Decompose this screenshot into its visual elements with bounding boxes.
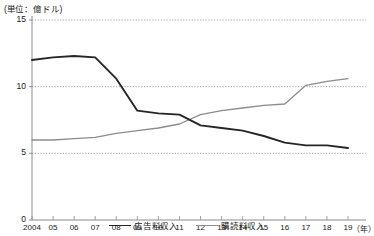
chart-canvas	[0, 0, 374, 236]
axis-lines	[32, 16, 366, 220]
line-chart: (単位：億ドル) 051015 200405060708091011121314…	[0, 0, 374, 236]
chart-legend: 広告料収入購読料収入	[0, 219, 374, 231]
y-tick-label: 15	[4, 14, 26, 24]
data-series-lines	[32, 56, 348, 148]
y-tick-label: 5	[4, 147, 26, 157]
legend-label: 広告料収入	[134, 219, 178, 231]
legend-item-1[interactable]: 広告料収入	[109, 219, 178, 231]
legend-item-2[interactable]: 購読料収入	[196, 219, 265, 231]
legend-line-swatch	[109, 225, 131, 226]
legend-line-swatch	[196, 225, 218, 226]
series-line-1	[32, 56, 348, 148]
series-line-2	[32, 79, 348, 140]
legend-label: 購読料収入	[221, 219, 265, 231]
gridlines	[32, 20, 366, 153]
y-tick-label: 10	[4, 81, 26, 91]
